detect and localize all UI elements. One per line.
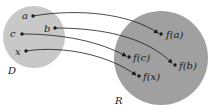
domain-set-label: D bbox=[7, 65, 16, 76]
label-a: a bbox=[22, 10, 28, 21]
range-set-label: R bbox=[114, 95, 123, 106]
label-fb: f(b) bbox=[178, 60, 197, 71]
label-c: c bbox=[10, 28, 16, 39]
function-diagram: a b c x f(a) f(b) f(c) f(x) D R bbox=[0, 0, 209, 109]
label-fa: f(a) bbox=[165, 29, 184, 40]
point-fb bbox=[173, 63, 176, 66]
point-fc bbox=[127, 55, 130, 58]
point-a bbox=[31, 14, 34, 17]
label-fx: f(x) bbox=[142, 71, 160, 82]
point-b bbox=[53, 26, 56, 29]
point-fa bbox=[159, 32, 162, 35]
label-x: x bbox=[15, 46, 21, 57]
point-c bbox=[20, 32, 23, 35]
point-x bbox=[24, 49, 27, 52]
label-b: b bbox=[44, 23, 50, 34]
point-fx bbox=[137, 74, 140, 77]
label-fc: f(c) bbox=[132, 52, 150, 63]
